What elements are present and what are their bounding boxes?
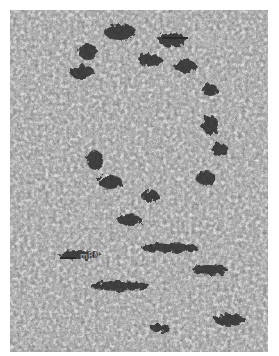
top-label-pointer — [162, 37, 188, 39]
top-label-line2: polysomes — [193, 38, 238, 47]
bottom-label-pointer — [60, 257, 76, 259]
micrograph: Loop of polysomes mRNA — [10, 10, 268, 352]
bottom-label-line1: mRNA — [80, 252, 106, 261]
bottom-label: mRNA — [80, 252, 106, 261]
top-label: Loop of polysomes — [193, 29, 238, 47]
top-label-line1: Loop of — [193, 29, 238, 38]
micrograph-texture — [10, 10, 268, 352]
